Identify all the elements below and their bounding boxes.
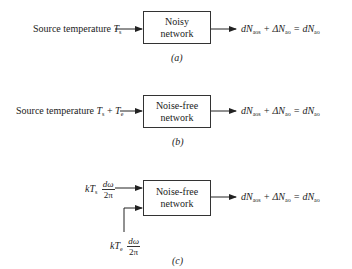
input-text: Source temperature (33, 23, 114, 34)
eq-term: dN (241, 105, 253, 116)
subscript: s (95, 189, 97, 195)
panel-a-input-label: Source temperature Ts (33, 23, 121, 38)
panel-a-output-equation: dNaos + ΔNao = dNao (241, 23, 320, 38)
eq-sub: aos (253, 111, 261, 117)
eq-term: dN (241, 191, 253, 202)
denominator: 2π (128, 247, 139, 257)
box-line-1: Noise-free (156, 100, 198, 112)
eq-term: dN (241, 23, 253, 34)
fraction: dω2π (102, 179, 115, 200)
box-line-2: network (161, 198, 194, 210)
caption-a: (a) (171, 52, 183, 63)
box-line-2: network (161, 112, 194, 124)
eq-sub: ao (314, 111, 320, 117)
eq-sub: ao (314, 29, 320, 35)
kt-term: kT (85, 183, 95, 194)
eq-term: = dN (291, 23, 314, 34)
kt-term: kT (110, 240, 120, 251)
eq-term: = dN (291, 105, 314, 116)
input-text: Source temperature (16, 105, 97, 116)
diagram: Source temperature Ts Noisy network dNao… (0, 0, 352, 269)
eq-term: = dN (291, 191, 314, 202)
panel-c-output-equation: dNaos + ΔNao = dNao (241, 191, 320, 206)
subscript: e (121, 111, 124, 117)
box-line-1: Noise-free (156, 186, 198, 198)
denominator: 2π (103, 190, 114, 200)
caption-b: (b) (172, 136, 184, 147)
box-line-2: network (161, 28, 194, 40)
panel-b-output-equation: dNaos + ΔNao = dNao (241, 105, 320, 120)
subscript: e (120, 246, 123, 252)
eq-sub: ao (314, 197, 320, 203)
noise-free-network-box-b: Noise-free network (143, 95, 211, 128)
fraction: dω2π (127, 236, 140, 257)
panel-c-input-1: kTs dω2π (85, 179, 115, 200)
plus-sign: + (104, 105, 115, 116)
numerator: dω (127, 236, 140, 247)
eq-sub: aos (253, 197, 261, 203)
noise-free-network-box-c: Noise-free network (143, 180, 211, 216)
eq-sub: aos (253, 29, 261, 35)
panel-c-input-2: kTe dω2π (110, 236, 140, 257)
panel-b-input-label: Source temperature Ts + Te (16, 105, 123, 120)
subscript: s (119, 29, 121, 35)
caption-c: (c) (172, 255, 183, 266)
eq-term: + ΔN (261, 105, 285, 116)
numerator: dω (102, 179, 115, 190)
eq-term: + ΔN (261, 23, 285, 34)
noisy-network-box: Noisy network (143, 11, 211, 44)
eq-term: + ΔN (261, 191, 285, 202)
box-line-1: Noisy (165, 16, 189, 28)
